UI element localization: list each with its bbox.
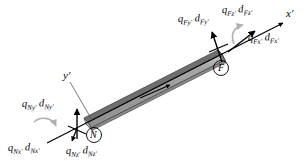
y-prime-axis-label: y′ — [63, 70, 70, 81]
node-markers — [87, 61, 229, 143]
qFz-q-sub: Fz′ — [227, 9, 236, 17]
qFy-q-sub: Fy′ — [183, 18, 192, 26]
label-qNx-dNx: qNx′ dNx′ — [8, 142, 40, 154]
diagram-canvas — [0, 0, 308, 161]
node-N-label: N — [90, 130, 97, 140]
qFy-d-sub: Fy′ — [200, 17, 209, 25]
qNy-d-sub: Ny′ — [44, 102, 54, 110]
label-qFx-dFx: qFx′ dFx′ — [248, 32, 279, 44]
beam-top-face — [84, 50, 222, 122]
qNz-q-sub: Nz′ — [71, 150, 80, 158]
beam-bottom-face — [91, 60, 226, 131]
qNx-d-sub: Nx′ — [30, 146, 40, 154]
beam-element — [84, 50, 226, 131]
qNy-q-sub: Ny′ — [27, 103, 37, 111]
label-qNy-dNy: qNy′ dNy′ — [22, 98, 54, 110]
qFx-d-sub: Fx′ — [270, 36, 279, 44]
local-y-axis-leader — [70, 82, 92, 120]
label-qNz-dNz: qNz′ dNz′ — [66, 145, 97, 157]
qNx-q-sub: Nx′ — [13, 147, 23, 155]
qNz-d-sub: Nz′ — [88, 149, 97, 157]
x-prime-axis-label: x′ — [286, 8, 293, 19]
label-qFz-dFz: qFz′ dFz′ — [222, 4, 253, 16]
moment-arrow-qNx — [34, 118, 56, 126]
node-F-label: F — [218, 63, 224, 73]
qFz-d: d — [238, 3, 244, 14]
beam-force-diagram: x′ y′ N F qNy′ dNy′ qNx′ dNx′ qNz′ dNz′ … — [0, 0, 308, 161]
label-qFy-dFy: qFy′ dFy′ — [178, 13, 209, 25]
qFz-d-sub: Fz′ — [243, 8, 252, 16]
qFx-q-sub: Fx′ — [253, 37, 262, 45]
